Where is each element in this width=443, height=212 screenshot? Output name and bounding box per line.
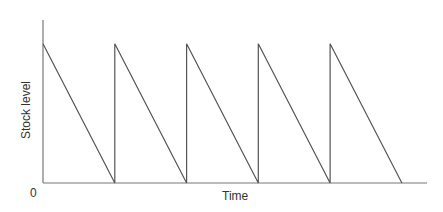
- y-axis-label: Stock level: [19, 70, 33, 150]
- sawtooth-series: [43, 44, 402, 183]
- origin-label: 0: [30, 186, 37, 200]
- x-axis-label: Time: [222, 189, 248, 203]
- stock-level-chart: Stock level Time 0: [0, 0, 443, 212]
- chart-plot: [0, 0, 443, 212]
